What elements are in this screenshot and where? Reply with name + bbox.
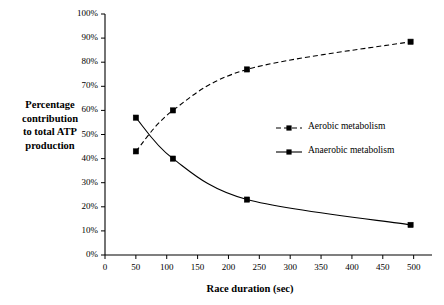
data-point-marker [133,115,138,120]
data-point-marker [244,67,249,72]
data-point-marker [408,222,413,227]
data-point-marker [170,156,175,161]
legend-label-1: Aerobic metabolism [308,121,385,131]
legend-marker-1 [286,125,291,130]
legend-label-2: Anaerobic metabolism [308,145,394,155]
series-line-1 [136,42,411,152]
data-point-marker [244,197,249,202]
data-point-marker [133,149,138,154]
legend-marker-2 [286,149,291,154]
series-line-2 [136,118,411,225]
chart-container: Percentage contribution to total ATP pro… [0,0,444,305]
data-point-marker [408,39,413,44]
data-point-marker [170,108,175,113]
